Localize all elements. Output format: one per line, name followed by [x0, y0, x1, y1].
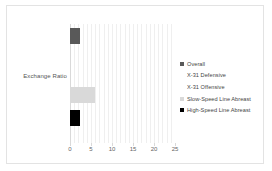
legend-label-x31-offensive: X-31 Offensive — [187, 84, 225, 90]
tick-label-15: 15 — [124, 146, 142, 152]
legend-swatch-icon-slow-speed-line-abreast — [180, 97, 184, 101]
chart-container: Exchange Ratio 0 5 10 15 20 25 Overall — [6, 5, 264, 164]
legend-label-high-speed-line-abreast: High-Speed Line Abreast — [187, 107, 250, 113]
legend-swatch-icon-overall — [180, 62, 184, 66]
bar-slow-speed-line-abreast[interactable] — [70, 87, 95, 103]
category-axis-label-exchange-ratio: Exchange Ratio — [15, 72, 67, 80]
tick-label-0: 0 — [61, 146, 79, 152]
bar-overall[interactable] — [70, 28, 80, 44]
legend: Overall X-31 Defensive X-31 Offensive Sl… — [180, 58, 262, 116]
tick-label-5: 5 — [82, 146, 100, 152]
legend-item-x31-defensive[interactable]: X-31 Defensive — [180, 70, 262, 82]
legend-item-high-speed-line-abreast[interactable]: High-Speed Line Abreast — [180, 104, 262, 116]
bar-high-speed-line-abreast[interactable] — [70, 110, 80, 126]
legend-label-x31-defensive: X-31 Defensive — [187, 72, 226, 78]
plot-area — [70, 24, 175, 143]
legend-item-slow-speed-line-abreast[interactable]: Slow-Speed Line Abreast — [180, 93, 262, 105]
legend-item-x31-offensive[interactable]: X-31 Offensive — [180, 81, 262, 93]
legend-swatch-icon-x31-defensive — [180, 73, 184, 77]
legend-swatch-icon-x31-offensive — [180, 85, 184, 89]
gridlines — [70, 24, 175, 143]
tick-label-20: 20 — [145, 146, 163, 152]
legend-label-overall: Overall — [187, 61, 205, 67]
legend-label-slow-speed-line-abreast: Slow-Speed Line Abreast — [187, 96, 251, 102]
legend-item-overall[interactable]: Overall — [180, 58, 262, 70]
tick-label-10: 10 — [103, 146, 121, 152]
tick-label-25: 25 — [166, 146, 184, 152]
legend-swatch-icon-high-speed-line-abreast — [180, 108, 184, 112]
